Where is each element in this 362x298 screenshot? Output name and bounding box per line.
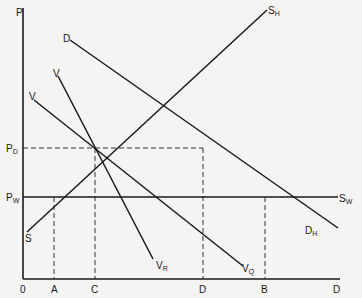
tick-label-a: A	[51, 284, 58, 295]
origin-label: 0	[20, 284, 26, 295]
tick-label-b: B	[261, 284, 268, 295]
sh-end-label: SH	[268, 5, 280, 17]
pw-label: PW	[6, 192, 20, 204]
supply-demand-diagram: P 0 D PD PW A C D B S SH D DH V VR V VQ …	[0, 0, 362, 298]
vq-start-label: V	[29, 91, 36, 102]
x-axis-end-label: D	[333, 284, 340, 295]
sw-end-label: SW	[339, 193, 353, 205]
dh-end-label: DH	[305, 225, 317, 237]
vq-end-label: VQ	[242, 263, 255, 276]
vr-start-label: V	[53, 68, 60, 79]
pd-label: PD	[6, 143, 18, 155]
y-axis-label: P	[16, 7, 23, 18]
dh-start-label: D	[63, 33, 70, 44]
vr-end-label: VR	[156, 260, 168, 272]
vr-curve	[58, 76, 153, 259]
tick-label-c: C	[91, 284, 98, 295]
vq-curve	[34, 100, 243, 266]
tick-label-d: D	[199, 284, 206, 295]
sh-start-label: S	[25, 233, 32, 244]
